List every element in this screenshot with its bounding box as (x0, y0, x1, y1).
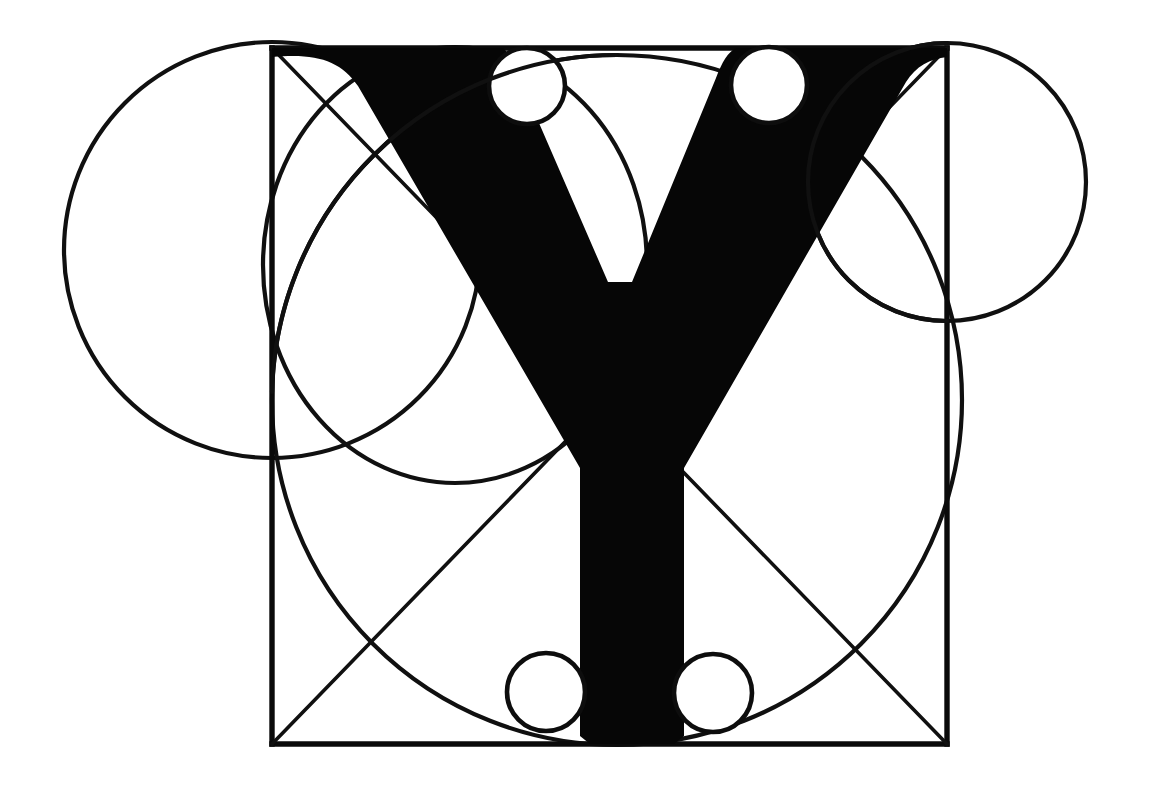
small-circle-bottom-right (674, 654, 752, 732)
letter-construction-diagram (0, 0, 1152, 808)
small-circle-bottom-left (507, 653, 585, 731)
small-circle-top-right (731, 47, 807, 123)
figure-canvas: Geometric construction of the capital le… (0, 0, 1152, 808)
